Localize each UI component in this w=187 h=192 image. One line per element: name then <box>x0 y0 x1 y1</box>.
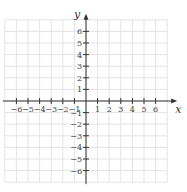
y-tick-label: −1 <box>70 109 82 118</box>
x-axis-ticks: −6−5−4−3−2−1123456 <box>11 98 159 114</box>
y-tick-label: 1 <box>77 85 82 94</box>
x-axis-label: x <box>175 103 182 116</box>
x-tick-label: 5 <box>141 105 146 114</box>
x-tick-label: −3 <box>45 105 57 114</box>
x-tick-label: 2 <box>107 105 112 114</box>
x-tick-label: −4 <box>34 105 46 114</box>
y-axis-label: y <box>73 8 81 21</box>
x-tick-label: 1 <box>95 105 100 114</box>
y-tick-label: 2 <box>77 74 82 83</box>
y-tick-label: 5 <box>77 39 82 48</box>
x-tick-label: 6 <box>153 105 158 114</box>
y-axis-arrow-icon <box>84 14 89 20</box>
coordinate-plane: −6−5−4−3−2−1123456 654321−1−2−3−4−5−6 x … <box>0 0 187 192</box>
y-tick-label: −4 <box>70 143 82 152</box>
y-tick-label: 6 <box>77 27 82 36</box>
x-tick-label: −2 <box>57 105 69 114</box>
y-tick-label: −2 <box>70 120 82 129</box>
x-tick-label: 4 <box>130 105 135 114</box>
y-tick-label: −3 <box>70 132 82 141</box>
x-tick-label: 3 <box>118 105 123 114</box>
x-tick-label: −6 <box>11 105 23 114</box>
y-tick-label: 4 <box>77 51 82 60</box>
y-tick-label: −5 <box>70 155 82 164</box>
x-tick-label: −5 <box>22 105 34 114</box>
y-tick-label: −6 <box>70 167 82 176</box>
y-tick-label: 3 <box>77 62 82 71</box>
